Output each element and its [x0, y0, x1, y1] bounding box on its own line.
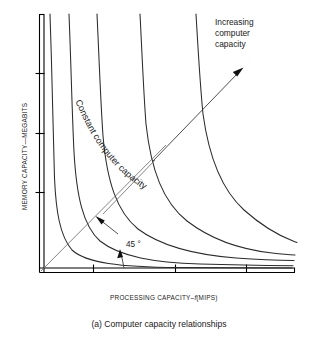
y-axis: [40, 14, 45, 273]
x-axis-ticks: [94, 265, 247, 274]
increasing-line-3: capacity: [215, 39, 247, 49]
capacity-curve-1: [50, 14, 292, 268]
svg-text:PROCESSING CAPACITY–f(MIPS): PROCESSING CAPACITY–f(MIPS): [110, 294, 218, 302]
capacity-curves: [50, 14, 297, 268]
forty-five-degree-line: [41, 145, 166, 271]
figure-computer-capacity: Constant computer capacity Increasing co…: [0, 0, 318, 338]
capacity-curve-5: [196, 14, 297, 243]
figure-caption: (a) Computer capacity relationships: [91, 319, 226, 329]
increasing-line-2: computer: [215, 28, 250, 38]
x-axis-label-tail: (MIPS): [196, 294, 217, 302]
capacity-curve-4: [140, 14, 295, 255]
angle-label: 45 °: [126, 240, 141, 249]
y-axis-label: MEMORY CAPACITY—MEGABITS: [21, 103, 28, 210]
increasing-line-1: Increasing: [215, 17, 254, 27]
capacity-chart-svg: Constant computer capacity Increasing co…: [0, 0, 318, 338]
increasing-capacity-label: Increasing computer capacity: [215, 17, 254, 49]
x-axis-label-main: PROCESSING CAPACITY–: [110, 294, 195, 301]
x-axis-label: PROCESSING CAPACITY–f(MIPS): [110, 294, 218, 302]
constant-capacity-label: Constant computer capacity: [73, 98, 149, 191]
x-axis: [40, 268, 296, 273]
capacity-curve-3: [97, 14, 294, 261]
increasing-capacity-arrow: [153, 68, 244, 162]
angle-arrow-diagonal: [96, 216, 119, 234]
